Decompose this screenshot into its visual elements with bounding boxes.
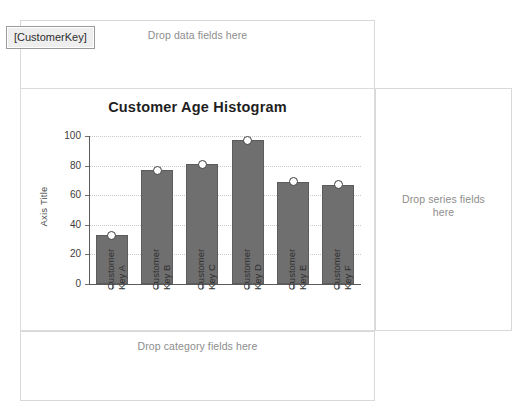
x-tick-label: Customer Key F <box>331 249 353 290</box>
x-axis-line <box>89 284 361 285</box>
x-tick-label: Customer Key B <box>150 249 172 290</box>
gridline <box>90 225 361 226</box>
x-tick-label: Customer Key C <box>195 249 217 290</box>
gridline <box>90 254 361 255</box>
y-tick-label: 40 <box>51 219 81 230</box>
gridline <box>90 166 361 167</box>
y-axis-title: Axis Title <box>38 167 49 247</box>
y-tick-mark <box>85 166 89 167</box>
y-axis-line <box>89 136 90 285</box>
chart-plot-area: Axis Title Age 020406080100Customer Key … <box>21 89 375 331</box>
x-tick-label: Customer Key A <box>105 249 127 290</box>
category-field-chip-customerkey[interactable]: [CustomerKey] <box>6 26 95 49</box>
series-fields-hint: Drop series fields here <box>376 193 511 219</box>
y-tick-label: 0 <box>51 278 81 289</box>
y-tick-label: 60 <box>51 189 81 200</box>
y-tick-mark <box>85 254 89 255</box>
gridline <box>90 195 361 196</box>
y-tick-mark <box>85 195 89 196</box>
y-tick-mark <box>85 225 89 226</box>
chart-preview-panel[interactable]: Customer Age Histogram Axis Title Age 02… <box>20 88 375 331</box>
category-fields-hint: Drop category fields here <box>21 340 374 353</box>
y-tick-mark <box>85 136 89 137</box>
y-tick-label: 20 <box>51 248 81 259</box>
category-fields-drop-zone[interactable]: Drop category fields here <box>20 331 375 401</box>
gridline <box>90 136 361 137</box>
data-point-marker[interactable] <box>198 160 207 169</box>
x-tick-label: Customer Key E <box>286 249 308 290</box>
data-point-marker[interactable] <box>289 177 298 186</box>
data-point-marker[interactable] <box>107 231 116 240</box>
x-tick-label: Customer Key D <box>241 249 263 290</box>
y-tick-label: 80 <box>51 160 81 171</box>
data-point-marker[interactable] <box>153 166 162 175</box>
y-tick-mark <box>85 284 89 285</box>
series-fields-drop-zone[interactable]: Drop series fields here <box>375 88 512 331</box>
y-tick-label: 100 <box>51 130 81 141</box>
